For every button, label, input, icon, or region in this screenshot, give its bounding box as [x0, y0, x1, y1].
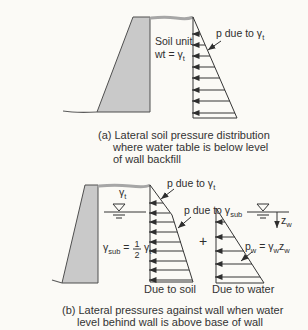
- gamma-t-label-b: γt: [119, 186, 127, 201]
- retaining-wall-b: [62, 185, 98, 283]
- p-due-to-gamma-t-label-a: p due to γt: [216, 27, 265, 42]
- retaining-wall-a: [97, 17, 150, 112]
- ground-line-b: [52, 280, 62, 283]
- soil-unit-label-line2: wt = γt: [154, 48, 186, 63]
- leader-arrow-gamma-t-b: [161, 189, 174, 199]
- leader-arrow-p-a: [208, 41, 221, 50]
- backfill-surface-a: [151, 17, 192, 18]
- lateral-pressure-figure: Soil unit wt = γt p due to γt (a) Latera…: [0, 0, 308, 330]
- due-to-soil-caption: Due to soil: [144, 283, 196, 295]
- diagram-a: Soil unit wt = γt p due to γt (a) Latera…: [63, 17, 270, 165]
- leader-arrow-pw: [241, 252, 252, 261]
- caption-b-line1: (b) Lateral pressures against wall when …: [62, 304, 284, 316]
- caption-a-line3: of wall backfill: [113, 153, 181, 165]
- p-due-to-gamma-t-label-b: p due to γt: [167, 177, 216, 192]
- svg-text:γsub =: γsub =: [103, 241, 129, 256]
- caption-a-line1: (a) Lateral soil pressure distribution: [98, 129, 270, 141]
- retaining-wall-diagram-svg: Soil unit wt = γt p due to γt (a) Latera…: [0, 0, 308, 330]
- caption-b-line2: level behind wall is above base of wall: [77, 316, 263, 328]
- svg-text:γt: γt: [144, 241, 152, 256]
- plus-sign: +: [199, 233, 207, 249]
- diagram-b: γt γsub = 1 2 γt: [52, 177, 292, 328]
- water-table-symbol-left: [104, 204, 146, 218]
- fraction-denominator: 2: [134, 250, 139, 260]
- caption-a-line2: where water table is below level: [112, 141, 268, 153]
- fraction-numerator: 1: [134, 239, 139, 249]
- soil-pressure-diagram-b: [150, 185, 193, 282]
- ground-line-a: [63, 111, 97, 112]
- due-to-water-caption: Due to water: [212, 283, 275, 295]
- leader-arrow-gamma-sub: [178, 217, 191, 228]
- p-due-to-gamma-sub-label: p due to γsub: [184, 204, 242, 219]
- gamma-sub-equation: γsub = 1 2 γt: [103, 239, 152, 260]
- soil-unit-label-line1: Soil unit: [155, 35, 192, 47]
- zw-label: zw: [281, 214, 292, 229]
